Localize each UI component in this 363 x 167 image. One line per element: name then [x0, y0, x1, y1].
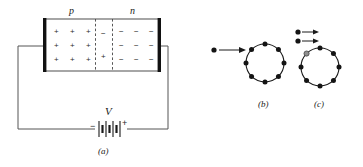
ring-dot	[337, 65, 342, 70]
absorbed-electron-dot	[304, 51, 309, 56]
ring-dot	[304, 78, 309, 83]
electron-arrow-icon	[302, 39, 319, 44]
n-charge: −	[134, 42, 139, 50]
panel-c-diagram	[295, 29, 341, 88]
ring-dot	[331, 51, 336, 56]
n-charge: −	[149, 28, 154, 36]
panel-a-circuit	[18, 18, 168, 137]
n-charge: −	[119, 42, 124, 50]
incoming-electron-dot	[211, 47, 216, 52]
electron-arrow-icon	[219, 47, 246, 53]
electron-arrow-icon	[302, 30, 319, 35]
caption-b: (b)	[258, 99, 269, 109]
p-charge: +	[86, 42, 91, 50]
p-charge: +	[70, 28, 75, 36]
depletion-positive-sign: +	[101, 53, 106, 61]
incoming-electron-dot	[295, 29, 300, 34]
ring-dot	[276, 47, 281, 52]
p-charge: +	[70, 42, 75, 50]
n-charge: −	[134, 28, 139, 36]
n-charge: −	[119, 56, 124, 64]
n-charge: −	[134, 56, 139, 64]
ring-dots-b	[244, 42, 287, 85]
panel-b-diagram	[211, 42, 286, 85]
battery-voltage-label: V	[105, 105, 112, 117]
n-region-label: n	[130, 5, 135, 16]
ring-dot	[276, 74, 281, 79]
ring-dot	[299, 65, 304, 70]
ring-dot	[249, 74, 254, 79]
figure-vector-layer	[0, 0, 363, 167]
pn-junction-figure: p n + + + + + + + + + − + − − − − − − − …	[0, 0, 363, 167]
p-charge: +	[54, 42, 59, 50]
battery-negative-terminal-label: −	[90, 122, 95, 130]
caption-c: (c)	[314, 99, 324, 109]
p-region-label: p	[69, 5, 74, 16]
n-charge: −	[149, 56, 154, 64]
left-electrode	[43, 18, 46, 72]
battery-positive-terminal-label: +	[122, 119, 127, 127]
p-charge: +	[86, 56, 91, 64]
p-charge: +	[70, 56, 75, 64]
p-charge: +	[86, 28, 91, 36]
depletion-negative-sign: −	[101, 30, 106, 38]
semiconductor-body	[44, 19, 160, 71]
p-charge: +	[54, 56, 59, 64]
right-electrode	[158, 18, 161, 72]
ring-dot	[263, 42, 268, 47]
ring-dot	[318, 46, 323, 51]
ring-dot	[263, 80, 268, 85]
caption-a: (a)	[98, 146, 109, 156]
incoming-electron-dot	[295, 38, 300, 43]
n-charge: −	[149, 42, 154, 50]
p-charge: +	[54, 28, 59, 36]
n-charge: −	[119, 28, 124, 36]
battery-symbol	[99, 121, 120, 137]
ring-dot	[249, 47, 254, 52]
ring-dot	[331, 78, 336, 83]
ring-dot	[282, 61, 287, 66]
ring-dot	[318, 84, 323, 89]
ring-dot	[244, 61, 249, 66]
